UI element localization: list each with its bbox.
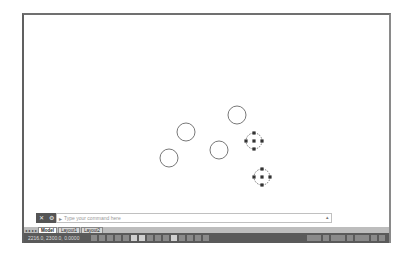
command-line: ✕ ⚙ ▸ Type your command here ▴: [36, 213, 332, 223]
close-icon[interactable]: ✕: [39, 213, 44, 223]
status-bar: 2216.0, 2300.0, 0.0000: [24, 233, 389, 243]
osnap-icon[interactable]: [123, 235, 129, 241]
isolate-objects-icon[interactable]: [355, 235, 369, 241]
selected-circle[interactable]: [244, 131, 263, 150]
workspace-icon[interactable]: [331, 235, 345, 241]
selection-cycling-icon[interactable]: [179, 235, 185, 241]
annotation-scale-icon[interactable]: [323, 235, 329, 241]
model-space-icon[interactable]: [307, 235, 321, 241]
snap-icon[interactable]: [91, 235, 97, 241]
command-placeholder: Type your command here: [64, 215, 121, 221]
circle[interactable]: [160, 149, 178, 167]
ortho-icon[interactable]: [107, 235, 113, 241]
grip-handle[interactable]: [260, 167, 263, 170]
ducs-icon[interactable]: [139, 235, 145, 241]
grid-icon[interactable]: [99, 235, 105, 241]
cursor-coordinates: 2216.0, 2300.0, 0.0000: [24, 235, 83, 241]
chevron-up-icon[interactable]: ▴: [326, 214, 329, 220]
drawing-area[interactable]: [24, 15, 389, 211]
prompt-icon: ▸: [59, 215, 62, 222]
fullscreen-icon[interactable]: [371, 235, 377, 241]
annotation-monitor-icon[interactable]: [195, 235, 201, 241]
grip-handle[interactable]: [252, 147, 255, 150]
grip-handle[interactable]: [260, 175, 263, 178]
drawing-canvas[interactable]: [24, 15, 389, 211]
grip-handle[interactable]: [260, 183, 263, 186]
lineweight-icon[interactable]: [155, 235, 161, 241]
3d-osnap-icon[interactable]: [187, 235, 193, 241]
cad-application-window: ✕ ⚙ ▸ Type your command here ▴ ◂ ◂ ▸ ▸ M…: [22, 13, 391, 243]
circle[interactable]: [177, 123, 195, 141]
grip-handle[interactable]: [252, 175, 255, 178]
circle[interactable]: [228, 106, 246, 124]
units-icon[interactable]: [203, 235, 209, 241]
quick-properties-icon[interactable]: [171, 235, 177, 241]
grip-handle[interactable]: [260, 139, 263, 142]
command-line-buttons: ✕ ⚙: [36, 213, 56, 223]
grip-handle[interactable]: [244, 139, 247, 142]
grip-handle[interactable]: [268, 175, 271, 178]
command-input[interactable]: ▸ Type your command here ▴: [56, 213, 332, 223]
transparency-icon[interactable]: [163, 235, 169, 241]
dyn-icon[interactable]: [147, 235, 153, 241]
wrench-icon[interactable]: ⚙: [49, 213, 54, 223]
lock-icon[interactable]: [347, 235, 353, 241]
grip-handle[interactable]: [252, 131, 255, 134]
otrack-icon[interactable]: [131, 235, 137, 241]
polar-icon[interactable]: [115, 235, 121, 241]
circle[interactable]: [210, 141, 228, 159]
status-bar-right: [307, 235, 385, 241]
grip-handle[interactable]: [252, 139, 255, 142]
customize-icon[interactable]: [379, 235, 385, 241]
drafting-toggles: [91, 235, 209, 241]
selected-circle[interactable]: [252, 167, 271, 186]
